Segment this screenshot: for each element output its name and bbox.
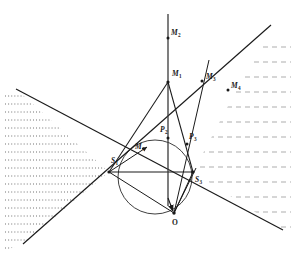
tick-m4 [227,89,230,92]
edge-m1-s3 [168,82,193,172]
label-o: O [172,219,178,227]
label-m3: M3 [206,73,215,81]
label-m1: M1 [172,70,181,78]
crossing-line-ascending [23,25,271,244]
tick-m3 [201,80,204,83]
tick-p2 [167,137,170,140]
tick-o [172,211,175,214]
label-p2: P2 [160,126,167,134]
diagram-svg [0,0,293,259]
tick-m2 [167,37,170,40]
label-m2: M2 [171,29,180,37]
label-m4-outer: M4 [231,82,240,90]
tick-p3 [186,143,189,146]
ray-o-to-s1 [109,172,174,213]
vertical-axis-arrow-to-o [168,198,173,211]
tick-s1 [107,170,110,173]
label-s1: S1 [111,157,118,165]
label-m4-inner: M4 [135,143,144,151]
label-s3: S3 [195,176,202,184]
main-circle [118,140,192,214]
figure-container: M2 M1 M3 M4 M4 P2 P3 S1 S3 O [0,0,293,259]
tick-m1 [166,80,169,83]
label-p3: P3 [189,133,196,141]
tick-s3 [191,170,194,173]
